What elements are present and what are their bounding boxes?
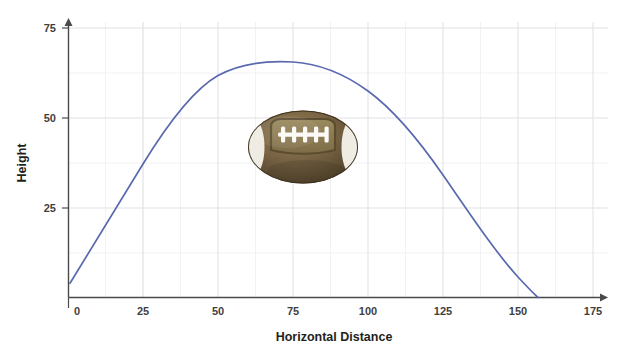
x-tick-label-0: 0 [74, 305, 80, 317]
projectile-motion-chart: 75 50 25 0 25 50 75 100 125 150 175 Hori… [0, 0, 619, 360]
x-tick-label-150: 150 [509, 305, 527, 317]
x-tick-label-75: 75 [287, 305, 299, 317]
y-tick-label-25: 25 [44, 202, 56, 214]
y-axis-title: Height [15, 143, 29, 183]
x-tick-label-25: 25 [137, 305, 149, 317]
x-tick-label-50: 50 [212, 305, 224, 317]
x-tick-label-175: 175 [584, 305, 602, 317]
y-tick-label-50: 50 [44, 112, 56, 124]
chart-plot-area: 75 50 25 0 25 50 75 100 125 150 175 Hori… [0, 0, 619, 360]
x-tick-label-100: 100 [359, 305, 377, 317]
x-tick-label-125: 125 [434, 305, 452, 317]
y-tick-label-75: 75 [44, 22, 56, 34]
x-axis-title: Horizontal Distance [276, 330, 393, 344]
